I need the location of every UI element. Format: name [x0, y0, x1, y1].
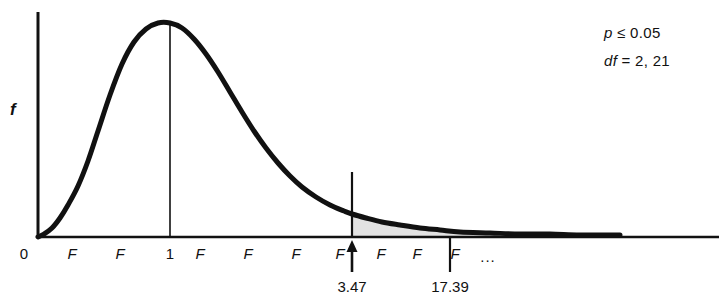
f-distribution-curve — [38, 22, 620, 237]
f-distribution-figure: f p ≤ 0.05 df = 2, 21 0FF1FFFFFFF... 3.4… — [0, 0, 719, 307]
df-value: = 2, 21 — [617, 52, 670, 69]
x-tick-label: F — [115, 245, 124, 262]
df-symbol: df — [604, 52, 617, 69]
significance-value: ≤ 0.05 — [613, 24, 661, 41]
distribution-plot — [0, 0, 719, 307]
critical-value-arrow-head — [347, 240, 358, 252]
x-tick-label: F — [67, 245, 76, 262]
degrees-of-freedom-annotation: df = 2, 21 — [604, 52, 670, 69]
significance-annotation: p ≤ 0.05 — [604, 24, 661, 41]
obtained-value-label: 17.39 — [431, 278, 469, 295]
x-tick-ellipsis: ... — [480, 248, 496, 265]
x-tick-label: F — [195, 245, 204, 262]
x-tick-label: F — [376, 245, 385, 262]
x-tick-label: F — [291, 245, 300, 262]
x-tick-label: 0 — [20, 245, 28, 262]
x-tick-label: F — [335, 245, 344, 262]
significance-symbol: p — [604, 24, 613, 41]
critical-value-label: 3.47 — [337, 278, 366, 295]
y-axis-label: f — [10, 100, 16, 120]
x-tick-label: F — [412, 245, 421, 262]
x-tick-label: F — [450, 245, 459, 262]
x-tick-label: 1 — [166, 245, 174, 262]
x-tick-label: F — [243, 245, 252, 262]
